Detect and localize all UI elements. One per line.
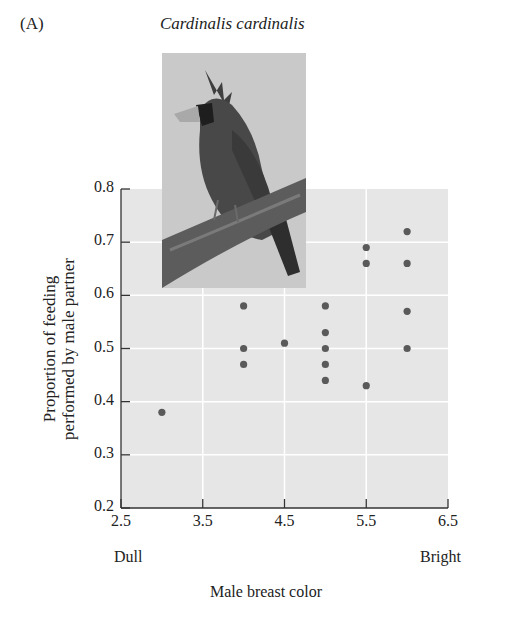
data-point — [404, 228, 411, 235]
y-tick-label: 0.7 — [74, 231, 114, 249]
data-point — [240, 345, 247, 352]
data-point — [322, 329, 329, 336]
data-point — [240, 361, 247, 368]
x-high-label: Bright — [420, 548, 461, 566]
data-point — [363, 382, 370, 389]
x-tick-label: 5.5 — [346, 512, 386, 530]
data-point — [322, 361, 329, 368]
y-tick-label: 0.4 — [74, 391, 114, 409]
data-point — [281, 340, 288, 347]
y-axis-title-line1: Proportion of feeding — [40, 224, 59, 474]
data-point — [363, 244, 370, 251]
data-point — [322, 345, 329, 352]
y-axis-title-line2: performed by male partner — [59, 224, 78, 474]
data-point — [404, 260, 411, 267]
y-tick-label: 0.5 — [74, 338, 114, 356]
y-axis-title: Proportion of feeding performed by male … — [40, 224, 78, 474]
data-point — [158, 409, 165, 416]
x-tick-label: 2.5 — [101, 512, 141, 530]
x-axis-title: Male breast color — [210, 583, 322, 601]
data-point — [322, 302, 329, 309]
data-point — [404, 345, 411, 352]
y-tick-label: 0.8 — [74, 178, 114, 196]
data-point — [404, 308, 411, 315]
data-point — [363, 260, 370, 267]
x-tick-label: 6.5 — [428, 512, 468, 530]
y-tick-label: 0.3 — [74, 444, 114, 462]
x-tick-label: 3.5 — [183, 512, 223, 530]
y-tick-label: 0.6 — [74, 284, 114, 302]
x-low-label: Dull — [114, 548, 142, 566]
data-point — [322, 377, 329, 384]
x-tick-label: 4.5 — [265, 512, 305, 530]
data-point — [240, 302, 247, 309]
bird-photo-icon — [162, 53, 306, 288]
